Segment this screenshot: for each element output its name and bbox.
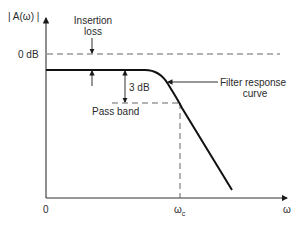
pass-band-label: Pass band bbox=[92, 106, 139, 117]
insertion-loss-label-line2: loss bbox=[72, 26, 114, 37]
filter-response-diagram bbox=[0, 0, 300, 225]
cutoff-subscript: c bbox=[182, 210, 186, 217]
three-db-label: 3 dB bbox=[129, 82, 150, 93]
origin-label: 0 bbox=[43, 204, 49, 215]
cutoff-omega: ω bbox=[174, 204, 182, 215]
zero-db-label: 0 dB bbox=[18, 49, 39, 60]
cutoff-frequency-label: ωc bbox=[174, 204, 185, 219]
insertion-loss-label-line1: Insertion bbox=[72, 15, 114, 26]
filter-response-label-line1: Filter response bbox=[220, 77, 286, 88]
x-axis-label: ω bbox=[283, 204, 291, 215]
y-axis-label: | A(ω) | bbox=[8, 11, 39, 22]
filter-response-label-line2: curve bbox=[220, 88, 290, 99]
